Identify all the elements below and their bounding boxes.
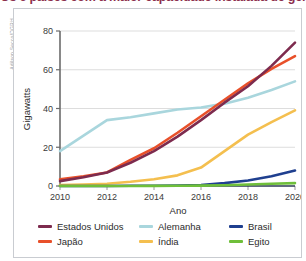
y-tick-label: 60 [43,65,53,75]
y-axis-title: Gigawatts [21,88,32,130]
legend-label: Egito [248,236,270,247]
legend-item-japao[interactable]: Japão [38,234,124,249]
x-axis-title: Ano [170,205,187,216]
legend-item-estados-unidos[interactable]: Estados Unidos [38,219,124,234]
legend-column-2: Alemanha Índia [139,219,201,249]
legend-label: Índia [158,236,179,247]
x-tick-label: 2014 [144,192,164,202]
legend-swatch-icon [229,225,243,229]
legend-label: Estados Unidos [57,221,124,232]
y-tick-label: 40 [43,104,53,114]
x-tick-label: 2016 [191,192,211,202]
chart-legend: Estados Unidos Japão Alemanha Índia [14,218,303,254]
chart-card: 020406080 201020122014201620182020 Gigaw… [13,8,302,258]
y-tick-label: 20 [43,143,53,153]
series-line-alemanha [60,81,295,151]
y-tick-label: 0 [48,181,53,191]
legend-item-brasil[interactable]: Brasil [229,219,272,234]
legend-column-3: Brasil Egito [229,219,272,249]
x-tick-label: 2012 [97,192,117,202]
line-chart-svg: 020406080 201020122014201620182020 Gigaw… [14,9,301,219]
series-lines [60,43,295,186]
x-tick-label: 2010 [50,192,70,202]
legend-item-india[interactable]: Índia [139,234,201,249]
legend-swatch-icon [38,225,52,229]
legend-column-1: Estados Unidos Japão [38,219,124,249]
legend-label: Japão [57,236,83,247]
y-tick-label: 80 [43,26,53,36]
legend-label: Brasil [248,221,272,232]
legend-item-alemanha[interactable]: Alemanha [139,219,201,234]
legend-label: Alemanha [158,221,201,232]
series-line-estados-unidos [60,43,295,182]
legend-swatch-icon [139,240,153,244]
plot-area: 020406080 201020122014201620182020 Gigaw… [14,9,301,219]
x-tick-label: 2018 [238,192,258,202]
legend-swatch-icon [139,225,153,229]
x-tick-label: 2020 [285,192,301,202]
legend-swatch-icon [38,240,52,244]
chart-title: Os 6 países com a maior capacidade insta… [0,0,306,4]
legend-swatch-icon [229,240,243,244]
x-axis-ticks: 201020122014201620182020 [50,186,301,202]
legend-item-egito[interactable]: Egito [229,234,272,249]
y-axis-ticks: 020406080 [43,26,60,191]
solar-capacity-chart-figure: Os 6 países com a maior capacidade insta… [0,0,306,261]
